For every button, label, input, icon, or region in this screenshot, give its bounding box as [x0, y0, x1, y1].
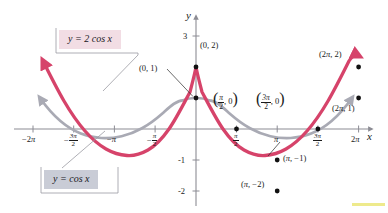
x-tick-label-neg2pi: −2π	[22, 135, 35, 144]
dot-0-2	[194, 65, 199, 70]
dot-2pi-1	[356, 96, 361, 101]
trig-graph-figure: y x 3 -1 -2 −2π −3π2 −π −π2 π2 π 3π2 2π …	[0, 0, 388, 213]
x-tick-label-negpi-over-2: −π2	[147, 133, 157, 149]
y-tick-label-neg2: -2	[178, 187, 185, 196]
x-tick-label-pi: π	[274, 135, 278, 144]
y-tick-label-neg1: -1	[178, 156, 185, 165]
leader-0-1	[167, 69, 193, 97]
x-tick-label-3pi-over-2: 3π2	[313, 133, 322, 149]
dot-pi-neg1	[275, 158, 280, 163]
x-axis-label: x	[367, 131, 372, 142]
dot-3pi2-axis	[316, 127, 321, 132]
callout-label-2cos-x: y = 2 cos x	[59, 30, 121, 49]
point-label-pi2-0: (π2, 0)	[213, 91, 238, 110]
point-label-0-2: (0, 2)	[200, 41, 218, 50]
callout-leader-2cos	[103, 55, 138, 91]
x-tick-label-negpi: −π	[107, 135, 116, 144]
point-label-2pi-1: (2π, 1)	[332, 104, 355, 113]
y-tick-label-3: 3	[183, 32, 187, 41]
dot-2pi-2	[356, 65, 361, 70]
point-label-pi-neg1: (π, −1)	[283, 154, 306, 163]
dot-0-1	[194, 96, 199, 101]
point-label-3pi2-0: (3π2, 0)	[256, 91, 285, 110]
point-label-0-1: (0, 1)	[139, 64, 157, 73]
callout-label-cos-x: y = cos x	[44, 170, 98, 189]
dot-pi-neg2	[275, 189, 280, 194]
x-tick-label-2pi: 2π	[351, 135, 360, 144]
x-tick-label-neg3pi-over-2: −3π2	[64, 133, 78, 149]
curve-2cos-x	[43, 55, 359, 155]
page-edge-marker	[352, 203, 385, 206]
point-label-pi-neg2: (π, −2)	[241, 180, 264, 189]
point-label-2pi-2: (2π, 2)	[319, 50, 342, 59]
dot-pi2-axis	[234, 127, 239, 132]
x-tick-label-pi-over-2: π2	[233, 133, 239, 149]
y-axis-label: y	[186, 10, 191, 21]
